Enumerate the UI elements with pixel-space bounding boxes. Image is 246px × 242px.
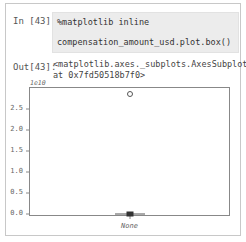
plot-axes xyxy=(0,0,246,242)
x-tick-none: None xyxy=(121,222,138,230)
y-tick-1.5: 1.5 xyxy=(3,146,23,154)
y-tick-0.0: 0.0 xyxy=(3,209,23,217)
y-tick-2.5: 2.5 xyxy=(3,104,23,112)
y-tick-0.5: 0.5 xyxy=(3,188,23,196)
y-tick-2.0: 2.0 xyxy=(3,125,23,133)
y-tick-1.0: 1.0 xyxy=(3,167,23,175)
